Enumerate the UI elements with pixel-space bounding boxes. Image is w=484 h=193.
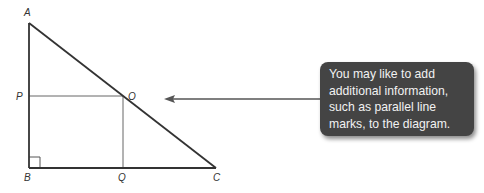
label-b: B bbox=[24, 172, 31, 183]
label-q: Q bbox=[118, 172, 126, 183]
label-p: P bbox=[16, 91, 23, 102]
right-angle-mark bbox=[29, 157, 40, 168]
callout-line-3: such as parallel line bbox=[329, 99, 466, 116]
callout-line-4: marks, to the diagram. bbox=[329, 116, 466, 133]
callout-note: You may like to add additional informati… bbox=[320, 62, 474, 136]
callout-line-2: additional information, bbox=[329, 83, 466, 100]
callout-line-1: You may like to add bbox=[329, 66, 466, 83]
label-c: C bbox=[213, 172, 221, 183]
label-o: O bbox=[128, 91, 136, 102]
label-a: A bbox=[23, 7, 31, 18]
